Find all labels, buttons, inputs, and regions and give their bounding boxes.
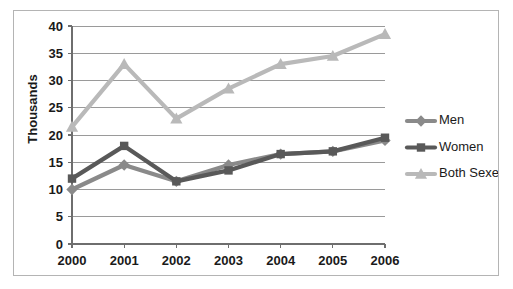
y-axis-title: Thousands [25,74,40,143]
data-point-marker [379,28,391,39]
line-chart: 0510152025303540 20002001200220032004200… [14,11,498,275]
y-tick-label: 10 [49,182,63,197]
data-point-marker [68,174,76,182]
y-tick-label: 30 [49,73,63,88]
y-tick-label: 5 [56,209,63,224]
x-tick-labels-group: 2000200120022003200420052006 [58,253,400,268]
y-tick-label: 15 [49,155,63,170]
x-tick-label: 2003 [214,253,243,268]
data-point-marker [224,166,232,174]
chart-frame: 0510152025303540 20002001200220032004200… [13,10,499,276]
data-point-marker [172,177,180,185]
legend-label: Men [439,112,464,127]
x-tick-label: 2000 [58,253,87,268]
y-tick-label: 35 [49,46,63,61]
legend-item-both-sexes[interactable]: Both Sexes [407,165,498,180]
x-tick-label: 2002 [162,253,191,268]
legend-item-men[interactable]: Men [407,112,464,127]
y-tick-label: 0 [56,237,63,252]
y-tick-label: 20 [49,128,63,143]
chart-legend: MenWomenBoth Sexes [407,112,498,180]
data-point-marker [276,150,284,158]
series-men [66,135,390,195]
x-tick-label: 2006 [371,253,400,268]
legend-item-women[interactable]: Women [407,139,484,154]
legend-label: Women [439,139,484,154]
x-tick-label: 2005 [318,253,347,268]
data-point-marker [381,134,389,142]
y-axis-title-group: Thousands [25,74,40,143]
series-both-sexes [66,28,391,132]
legend-marker [415,115,426,126]
y-tick-labels-group: 0510152025303540 [49,19,63,252]
y-tick-label: 25 [49,100,63,115]
legend-marker [417,143,425,151]
x-tick-label: 2004 [266,253,296,268]
y-tick-label: 40 [49,19,63,34]
data-point-marker [329,147,337,155]
x-tick-label: 2001 [110,253,139,268]
x-axis-group [72,244,385,248]
gridlines-group [72,26,385,244]
y-axis-group [68,26,72,244]
data-point-marker [118,58,130,69]
legend-label: Both Sexes [439,165,498,180]
data-point-marker [120,142,128,150]
